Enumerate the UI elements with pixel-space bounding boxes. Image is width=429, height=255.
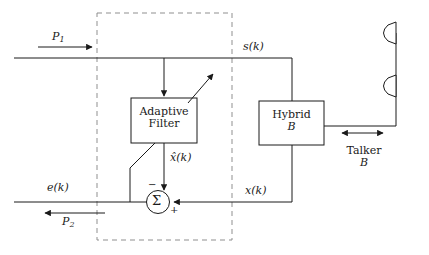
handset-mouthpiece-icon	[384, 75, 397, 97]
adaptive-filter-label: Adaptive Filter	[131, 106, 197, 129]
x-k-label: x(k)	[245, 185, 266, 197]
e-k-label: e(k)	[47, 182, 69, 194]
p1-label: P1	[52, 31, 65, 44]
adaptive-filter-label-line1: Adaptive	[131, 106, 197, 118]
hybrid-b-label-line1: Hybrid	[259, 109, 324, 121]
talker-b-label-line2: B	[338, 157, 390, 169]
hybrid-b-label: Hybrid B	[259, 109, 324, 132]
talker-b-label: Talker B	[338, 145, 390, 168]
p2-subscript: 2	[69, 220, 74, 229]
talker-b-label-line1: Talker	[338, 145, 390, 157]
summer-sigma-symbol: Σ	[152, 194, 161, 208]
p1-subscript: 1	[59, 35, 64, 44]
echo-canceller-diagram: P1 s(k) Adaptive Filter Hybrid B x̂(k) x…	[0, 0, 429, 255]
adaptive-filter-label-line2: Filter	[131, 118, 197, 130]
adaptation-arrow	[188, 74, 213, 103]
handset-earpiece-icon	[384, 22, 397, 44]
s-k-label: s(k)	[243, 41, 264, 53]
summer-plus-sign: +	[170, 205, 178, 216]
hybrid-b-label-line2: B	[259, 121, 324, 133]
x-hat-k-label: x̂(k)	[170, 152, 191, 164]
p2-label: P2	[62, 216, 75, 229]
summer-minus-sign: −	[148, 180, 156, 191]
